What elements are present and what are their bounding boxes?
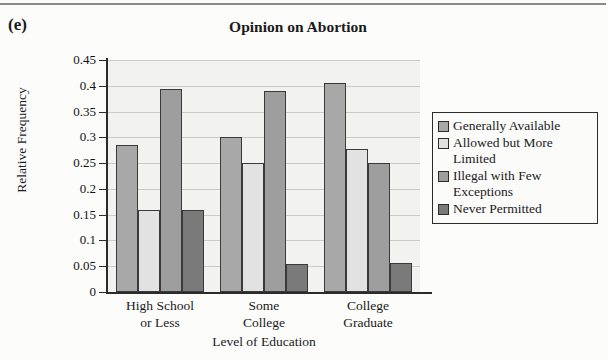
- legend-item-label: Never Permitted: [453, 201, 542, 217]
- legend-item: Allowed but More Limited: [438, 135, 593, 167]
- bar: [390, 263, 412, 292]
- x-axis-title: Level of Education: [108, 334, 420, 350]
- y-axis-tick-label: 0.4: [50, 79, 96, 92]
- bar: [138, 210, 160, 292]
- y-axis-tick-labels: 0.450.40.350.30.250.20.150.10.050: [48, 0, 96, 360]
- y-axis-tick: [99, 86, 107, 87]
- legend-item-label: Generally Available: [453, 118, 560, 134]
- legend-item: Never Permitted: [438, 201, 593, 217]
- y-axis-tick-label: 0.3: [50, 130, 96, 143]
- y-axis-tick: [99, 137, 107, 138]
- part-label: (e): [8, 15, 27, 35]
- bar: [346, 149, 368, 292]
- y-axis-tick-label: 0: [50, 285, 96, 298]
- chart-legend: Generally AvailableAllowed but More Limi…: [432, 112, 598, 224]
- bar: [264, 91, 286, 292]
- gridline: [108, 60, 420, 61]
- y-axis-tick: [99, 112, 107, 113]
- legend-item-label: Illegal with Few Exceptions: [453, 168, 541, 200]
- y-axis-tick: [99, 240, 107, 241]
- x-axis-group-label: Some College: [204, 297, 324, 331]
- bar: [116, 145, 138, 292]
- y-axis-title: Relative Frequency: [14, 75, 30, 205]
- bar: [324, 83, 346, 292]
- legend-swatch-icon: [438, 121, 449, 132]
- y-axis-tick-label: 0.1: [50, 233, 96, 246]
- gridline: [108, 86, 420, 87]
- bar: [160, 89, 182, 292]
- bar: [368, 163, 390, 292]
- y-axis-tick-label: 0.2: [50, 182, 96, 195]
- bar: [242, 163, 264, 292]
- y-axis-tick-label: 0.05: [50, 259, 96, 272]
- y-axis-tick: [99, 215, 107, 216]
- y-axis-tick: [99, 189, 107, 190]
- y-axis-tick-label: 0.15: [50, 208, 96, 221]
- legend-item-label: Allowed but More Limited: [453, 135, 553, 167]
- x-axis-group-label: College Graduate: [308, 297, 428, 331]
- bar: [220, 137, 242, 292]
- x-axis-line: [106, 292, 432, 294]
- y-axis-tick-label: 0.45: [50, 53, 96, 66]
- y-axis-tick: [99, 163, 107, 164]
- y-axis-line: [106, 58, 108, 294]
- y-axis-tick-label: 0.35: [50, 105, 96, 118]
- legend-swatch-icon: [438, 138, 449, 149]
- chart-title: Opinion on Abortion: [178, 18, 418, 36]
- legend-swatch-icon: [438, 204, 449, 215]
- plot-area: [108, 60, 420, 292]
- y-axis-tick: [99, 266, 107, 267]
- figure-page: (e) Opinion on Abortion 0.450.40.350.30.…: [0, 0, 608, 360]
- y-axis-tick-label: 0.25: [50, 156, 96, 169]
- bar: [182, 210, 204, 292]
- legend-item: Illegal with Few Exceptions: [438, 168, 593, 200]
- y-axis-tick: [99, 292, 107, 293]
- bar: [286, 264, 308, 292]
- legend-swatch-icon: [438, 171, 449, 182]
- y-axis-tick: [99, 60, 107, 61]
- x-axis-group-label: High School or Less: [100, 297, 220, 331]
- legend-item: Generally Available: [438, 118, 593, 134]
